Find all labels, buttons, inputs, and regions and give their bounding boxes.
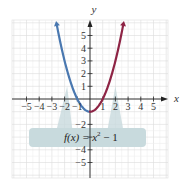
svg-text:−4: −4 [34, 101, 45, 112]
svg-text:4: 4 [138, 101, 143, 112]
svg-text:1: 1 [100, 101, 105, 112]
svg-text:−1: −1 [72, 101, 83, 112]
svg-text:−4: −4 [75, 144, 86, 155]
svg-text:x: x [173, 92, 179, 104]
svg-text:−2: −2 [75, 119, 86, 130]
svg-text:1: 1 [81, 81, 86, 92]
svg-text:2: 2 [81, 68, 86, 79]
svg-text:−2: −2 [59, 101, 70, 112]
function-label: f(x) = x2 − 1 [64, 130, 118, 143]
svg-text:3: 3 [126, 101, 131, 112]
svg-text:−3: −3 [47, 101, 58, 112]
svg-text:2: 2 [113, 101, 118, 112]
parabola-chart: −5−4−3−2−112345−5−4−212345xy [0, 0, 186, 188]
svg-text:y: y [91, 3, 97, 15]
svg-text:−5: −5 [75, 157, 86, 168]
svg-text:−5: −5 [21, 101, 32, 112]
svg-text:4: 4 [81, 43, 86, 54]
svg-text:5: 5 [151, 101, 156, 112]
svg-text:3: 3 [81, 55, 86, 66]
svg-text:5: 5 [81, 30, 86, 41]
